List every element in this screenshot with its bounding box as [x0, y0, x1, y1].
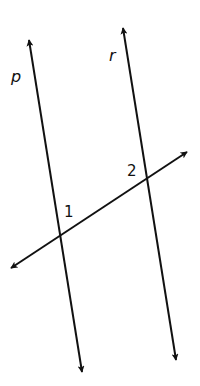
- line-p-label: p: [10, 67, 21, 86]
- angle-1-label: 1: [64, 203, 74, 221]
- parallel-lines-transversal-diagram: p r 1 2: [0, 0, 200, 386]
- angle-2-label: 2: [127, 162, 137, 180]
- line-r: [123, 28, 176, 360]
- line-r-label: r: [109, 46, 117, 65]
- line-p: [29, 40, 82, 372]
- transversal-line: [11, 152, 187, 268]
